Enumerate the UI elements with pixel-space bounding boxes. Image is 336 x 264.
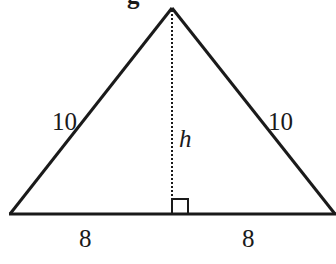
right-base-label: 8 [242,225,255,252]
triangle-diagram: g 10 10 h 8 8 [0,0,336,264]
right-side [172,8,335,214]
left-base-label: 8 [79,225,92,252]
right-angle-marker [172,199,188,214]
header-fragment: g [127,0,140,9]
left-side [10,8,172,214]
right-side-label: 10 [268,108,293,135]
left-side-label: 10 [52,108,77,135]
height-label: h [179,125,192,152]
